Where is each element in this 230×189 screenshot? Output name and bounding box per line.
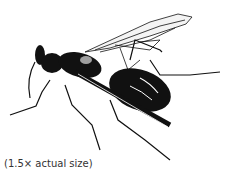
figure-caption: (1.5× actual size) xyxy=(4,158,93,169)
wasp-body xyxy=(35,45,177,127)
